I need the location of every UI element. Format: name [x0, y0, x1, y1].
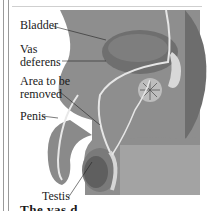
- lower-panel: [120, 140, 200, 195]
- caption-partial: The vas d...: [20, 202, 89, 211]
- pelvis-shadow: [185, 10, 206, 140]
- label-area-removed-2: removed: [20, 88, 62, 101]
- label-bladder: Bladder: [20, 19, 58, 32]
- label-vas-deferens-2: deferens: [20, 56, 61, 69]
- label-penis: Penis: [20, 110, 46, 123]
